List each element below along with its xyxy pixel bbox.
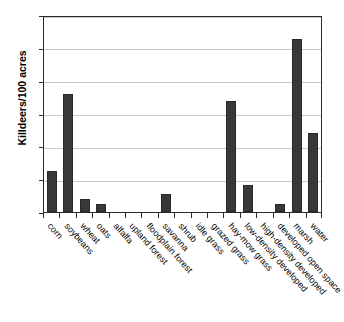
x-label-cell: low-density developed <box>240 219 256 319</box>
x-label-cell: oats <box>92 219 108 319</box>
bar-slot <box>305 17 321 212</box>
x-axis-tick-mark <box>43 213 59 218</box>
x-label-cell: corn <box>43 219 59 319</box>
bar <box>161 194 171 212</box>
x-axis-tick-mark <box>141 213 157 218</box>
bar-slot <box>44 17 60 212</box>
bar-slot <box>60 17 76 212</box>
x-axis-tick-mark <box>223 213 239 218</box>
x-axis-tick-mark <box>174 213 190 218</box>
bar <box>243 185 253 212</box>
y-axis-tick-mark <box>39 49 43 50</box>
bar-series <box>44 17 321 212</box>
bar <box>292 39 302 212</box>
x-label-cell: developed open space <box>273 219 289 319</box>
bar <box>308 133 318 212</box>
bar-slot <box>288 17 304 212</box>
y-axis-tick-mark <box>39 16 43 17</box>
x-axis-tick-mark <box>207 213 223 218</box>
x-axis-tick-mark <box>158 213 174 218</box>
bar-slot <box>256 17 272 212</box>
bar-slot <box>240 17 256 212</box>
x-label-cell: savanna <box>158 219 174 319</box>
bar-slot <box>191 17 207 212</box>
x-axis-tick-mark <box>109 213 125 218</box>
bar-slot <box>158 17 174 212</box>
x-axis-tick-mark <box>125 213 141 218</box>
x-axis-tick-mark <box>240 213 256 218</box>
x-axis-tick-mark <box>256 213 272 218</box>
bar-slot <box>109 17 125 212</box>
bar-slot <box>125 17 141 212</box>
x-axis-tick-mark <box>191 213 207 218</box>
y-axis-tick-mark <box>39 82 43 83</box>
x-label-cell: grazed grass <box>207 219 223 319</box>
x-axis-tick-mark <box>59 213 75 218</box>
bar-slot <box>223 17 239 212</box>
x-axis-tick-mark <box>306 213 322 218</box>
y-axis-tick-mark <box>39 213 43 214</box>
bar-slot <box>93 17 109 212</box>
bar-slot <box>142 17 158 212</box>
x-axis-tick-mark <box>92 213 108 218</box>
y-axis-title: Killdeers/100 acres <box>16 18 28 178</box>
bar <box>275 204 285 212</box>
bar-slot <box>174 17 190 212</box>
bar <box>226 101 236 212</box>
x-label-cell: marsh <box>289 219 305 319</box>
bar-slot <box>207 17 223 212</box>
y-axis-tick-mark <box>39 180 43 181</box>
bar <box>47 171 57 212</box>
plot-area <box>43 16 322 213</box>
x-axis-tick-labels: cornsoybeanswheatoatsalfalfaupland fores… <box>43 219 322 319</box>
x-label-cell: shrub <box>174 219 190 319</box>
x-label-cell: soybeans <box>59 219 75 319</box>
x-label-cell: upland forest <box>125 219 141 319</box>
y-axis-tick-mark <box>39 115 43 116</box>
x-label-cell: idle grass <box>191 219 207 319</box>
x-label-cell: alfalfa <box>109 219 125 319</box>
x-axis-ticks <box>43 213 322 218</box>
bar <box>63 94 73 212</box>
x-label-cell: hay-mow grass <box>223 219 239 319</box>
x-axis-tick-mark <box>76 213 92 218</box>
bar <box>96 204 106 212</box>
x-axis-category-label: water <box>308 221 330 244</box>
x-label-cell: water <box>306 219 322 319</box>
x-label-cell: high-density developed <box>256 219 272 319</box>
x-label-cell: wheat <box>76 219 92 319</box>
bar-slot <box>272 17 288 212</box>
y-axis-tick-mark <box>39 147 43 148</box>
x-label-cell: floodplain forest <box>141 219 157 319</box>
bar-slot <box>77 17 93 212</box>
x-axis-tick-mark <box>289 213 305 218</box>
x-axis-tick-mark <box>273 213 289 218</box>
bar <box>80 199 90 212</box>
